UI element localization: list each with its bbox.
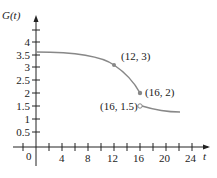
x-axis-arrow-icon bbox=[203, 145, 210, 150]
y-axis-label: G(t) bbox=[2, 9, 21, 22]
x-tick-label: 24 bbox=[185, 152, 197, 164]
chart: G(t) t 0 4 8 12 16 20 24 4 3.5 3 2.5 2 1… bbox=[0, 0, 217, 178]
y-tick-label: 2.5 bbox=[16, 74, 30, 86]
y-tick-label: 1 bbox=[25, 113, 31, 125]
y-tick-label: 3.5 bbox=[16, 49, 30, 61]
x-axis-label: t bbox=[203, 150, 207, 162]
y-tick-label: 1.5 bbox=[16, 100, 30, 112]
curve-piece-2 bbox=[142, 106, 180, 112]
x-tick-label: 8 bbox=[85, 152, 91, 164]
annotation-16-2: (16, 2) bbox=[145, 86, 175, 99]
y-tick-label: 4 bbox=[25, 36, 31, 48]
y-axis-arrow-icon bbox=[34, 15, 39, 22]
origin-label: 0 bbox=[26, 150, 32, 162]
y-tick-label: 2 bbox=[25, 87, 31, 99]
annotation-12-3: (12, 3) bbox=[121, 50, 151, 63]
x-tick-label: 4 bbox=[59, 152, 65, 164]
x-tick-label: 20 bbox=[159, 152, 171, 164]
annotation-16-1.5: (16, 1.5) bbox=[100, 100, 138, 113]
point-16-2-closed bbox=[138, 91, 142, 95]
point-16-1.5-open bbox=[138, 104, 142, 108]
y-tick-label: 3 bbox=[25, 61, 31, 73]
y-tick-label: 0.5 bbox=[16, 126, 30, 138]
x-tick-label: 12 bbox=[107, 152, 118, 164]
x-tick-label: 16 bbox=[133, 152, 145, 164]
point-12-3 bbox=[112, 63, 116, 67]
